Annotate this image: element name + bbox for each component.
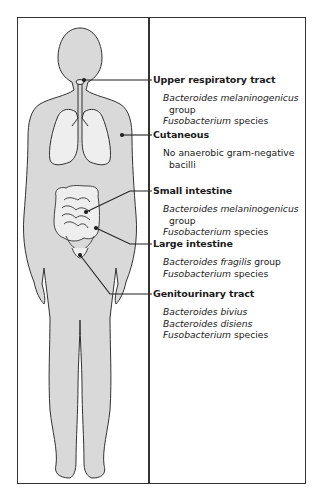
site-upper-respiratory: Upper respiratory tract Bacteroides mela… (153, 74, 313, 127)
site-small-intestine: Small intestine Bacteroides melaninogeni… (153, 185, 313, 238)
site-large-intestine: Large intestine Bacteroides fragilis gro… (153, 238, 313, 279)
organism-name: Fusobacterium (163, 329, 231, 340)
organism-qualifier: group (169, 104, 196, 115)
organism-name: Bacteroides melaninogenicus (163, 92, 299, 103)
site-title: Small intestine (153, 185, 313, 197)
organism-name: Fusobacterium (163, 115, 231, 126)
site-genitourinary: Genitourinary tract Bacteroides bivius B… (153, 288, 313, 341)
site-title: Large intestine (153, 238, 313, 250)
organism-name: Bacteroides fragilis (163, 256, 251, 267)
organism-qualifier: species (231, 115, 268, 126)
organism-name: Fusobacterium (163, 226, 231, 237)
organism-qualifier: group (169, 215, 196, 226)
organism-note: bacilli (169, 159, 196, 170)
organism-name: Bacteroides disiens (163, 318, 252, 329)
site-cutaneous: Cutaneous No anaerobic gram-negative bac… (153, 129, 313, 170)
organism-name: Fusobacterium (163, 268, 231, 279)
organism-qualifier: group (251, 256, 281, 267)
column-divider (148, 17, 150, 484)
organism-qualifier: species (231, 329, 268, 340)
organism-qualifier: species (231, 226, 268, 237)
organism-name: Bacteroides melaninogenicus (163, 203, 299, 214)
site-title: Cutaneous (153, 129, 313, 141)
organism-note: No anaerobic gram-negative (163, 147, 294, 158)
organism-qualifier: species (231, 268, 268, 279)
site-title: Upper respiratory tract (153, 74, 313, 86)
organism-name: Bacteroides bivius (163, 306, 247, 317)
site-title: Genitourinary tract (153, 288, 313, 300)
